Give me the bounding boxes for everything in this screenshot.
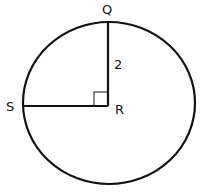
label-r: R <box>115 102 124 117</box>
circle-diagram: Q S R 2 <box>0 0 207 192</box>
length-label-rq: 2 <box>114 57 122 72</box>
label-q: Q <box>102 2 112 17</box>
label-s: S <box>6 99 14 114</box>
right-angle-marker <box>94 92 108 106</box>
